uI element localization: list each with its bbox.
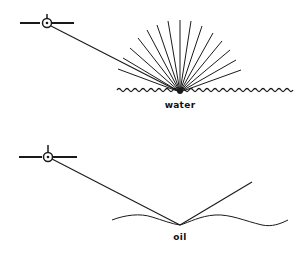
satellite-icon — [20, 14, 74, 28]
oil-panel — [19, 145, 288, 226]
oil-surface — [112, 215, 288, 226]
diagram-canvas — [0, 0, 306, 253]
satellite-icon — [19, 145, 77, 162]
incident-ray — [52, 159, 180, 225]
water-label: water — [165, 100, 196, 110]
reflected-ray — [180, 182, 252, 225]
water-surface — [117, 89, 293, 92]
scattered-rays — [118, 20, 241, 92]
water-panel — [20, 14, 293, 94]
oil-label: oil — [173, 232, 186, 242]
